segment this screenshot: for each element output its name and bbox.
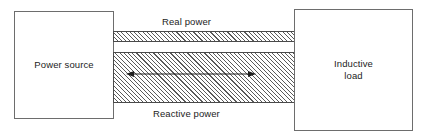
real-power-band [113, 31, 295, 42]
inductive-load-label: Inductive load [334, 58, 373, 82]
inductive-load-label-line1: Inductive [334, 58, 373, 69]
reactive-power-label: Reactive power [153, 108, 220, 120]
power-source-label: Power source [34, 59, 93, 71]
reactive-power-double-arrow-icon [124, 66, 258, 82]
real-power-label: Real power [162, 16, 211, 28]
inductive-load-label-line2: load [344, 70, 362, 81]
power-source-block: Power source [14, 11, 114, 119]
inductive-load-block: Inductive load [294, 9, 413, 131]
power-flow-diagram: Power source Real power Reactive power I… [0, 0, 427, 138]
